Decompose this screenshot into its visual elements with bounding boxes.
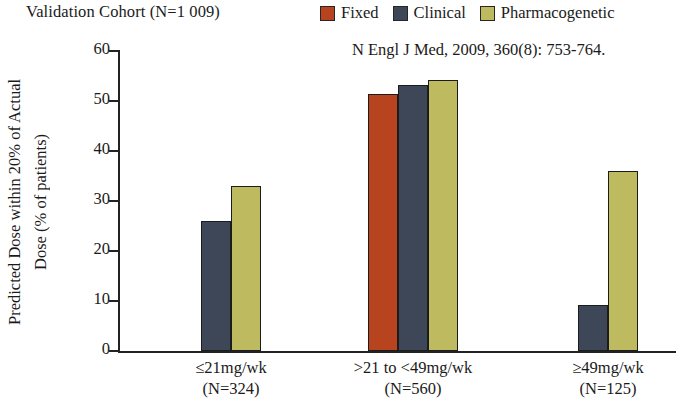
y-axis-title-line-2: Dose (% of patients) [28,44,54,359]
y-axis-tick-label: 50 [74,91,110,108]
x-axis-category-sublabel: (N=560) [323,378,503,399]
x-axis-category-label: >21 to <49mg/wk [323,357,503,378]
bar-pharmacogenetic-group-1 [231,186,261,351]
x-axis-category-label: ≥49mg/wk [518,357,679,378]
bar-pharmacogenetic-group-3 [608,171,638,351]
legend-label-pharmacogenetic: Pharmacogenetic [501,5,615,22]
y-axis-tick [109,150,118,152]
y-axis-title-line-1: Predicted Dose within 20% of Actual [2,44,28,359]
legend-item-fixed: Fixed [320,5,379,22]
x-axis-category-3: ≥49mg/wk(N=125) [518,357,679,399]
y-axis-tick [109,50,118,52]
y-axis-tick [109,350,118,352]
legend-label-fixed: Fixed [341,5,379,22]
x-axis-category-2: >21 to <49mg/wk(N=560) [323,357,503,399]
x-axis-category-1: ≤21mg/wk(N=324) [141,357,321,399]
y-axis-tick [109,250,118,252]
y-axis-line [118,50,120,352]
legend-swatch-fixed [320,6,335,21]
bar-fixed-group-2 [368,94,398,352]
y-axis-tick-label: 60 [74,41,110,58]
y-axis-tick-label: 30 [74,191,110,208]
y-axis-tick-label: 0 [74,341,110,358]
bar-pharmacogenetic-group-2 [428,80,458,352]
bar-clinical-group-2 [398,85,428,352]
y-axis-tick-label: 40 [74,141,110,158]
legend-swatch-pharmacogenetic [480,6,495,21]
x-axis-category-labels: ≤21mg/wk(N=324)>21 to <49mg/wk(N=560)≥49… [118,357,676,419]
y-axis-tick-label: 10 [74,291,110,308]
legend-swatch-clinical [393,6,408,21]
y-axis-title: Predicted Dose within 20% of Actual Dose… [0,44,52,359]
legend-label-clinical: Clinical [414,5,466,22]
y-axis-tick [109,200,118,202]
bar-clinical-group-1 [201,221,231,351]
legend-item-clinical: Clinical [393,5,466,22]
y-axis-tick [109,100,118,102]
x-axis-category-sublabel: (N=125) [518,378,679,399]
legend-item-pharmacogenetic: Pharmacogenetic [480,5,615,22]
chart-legend: Fixed Clinical Pharmacogenetic [320,5,614,22]
plot-area [118,50,676,352]
bar-clinical-group-3 [578,305,608,352]
x-axis-line [118,351,676,353]
x-axis-category-label: ≤21mg/wk [141,357,321,378]
y-axis-tick-label: 20 [74,241,110,258]
y-axis-tick-labels: 0102030405060 [72,50,110,352]
y-axis-tick [109,300,118,302]
chart-title: Validation Cohort (N=1 009) [26,2,220,22]
x-axis-category-sublabel: (N=324) [141,378,321,399]
bar-chart-figure: Validation Cohort (N=1 009) Fixed Clinic… [0,0,679,420]
